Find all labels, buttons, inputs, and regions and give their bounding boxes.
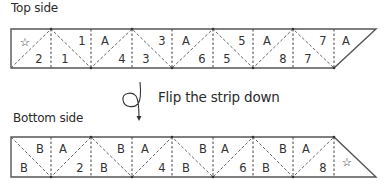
top-cell-label: 6: [198, 52, 205, 66]
top-cell-label: 1: [61, 52, 68, 66]
bottom-cell-label: B: [182, 161, 190, 175]
flip-instruction-text: Flip the strip down: [158, 89, 280, 105]
bottom-cell-label: 8: [319, 161, 326, 175]
top-cell-label: 8: [279, 52, 286, 66]
top-strip-cell-labels: ☆211A433A655A877A: [20, 34, 350, 66]
bottom-cell-label: B: [20, 161, 28, 175]
star-icon: ☆: [342, 155, 352, 169]
top-cell-label: A: [342, 34, 350, 48]
bottom-cell-label: A: [59, 142, 67, 156]
top-cell-label: 3: [142, 52, 149, 66]
top-cell-label: A: [101, 34, 109, 48]
top-cell-label: 5: [238, 34, 245, 48]
bottom-cell-label: B: [199, 142, 207, 156]
bottom-cell-label: A: [141, 142, 149, 156]
bottom-cell-label: 2: [76, 161, 83, 175]
bottom-cell-label: B: [279, 142, 287, 156]
top-cell-label: A: [263, 34, 271, 48]
top-cell-label: 7: [304, 52, 311, 66]
star-icon: ☆: [20, 35, 30, 49]
top-cell-label: 4: [118, 52, 125, 66]
bottom-cell-label: 4: [158, 161, 165, 175]
flip-arrow-icon: [123, 82, 142, 121]
bottom-strip: BBA2BBA4BBA6BBA8☆: [11, 136, 376, 179]
bottom-cell-label: B: [117, 142, 125, 156]
bottom-cell-label: B: [36, 142, 44, 156]
bottom-cell-label: B: [262, 161, 270, 175]
bottom-cell-label: 6: [239, 161, 246, 175]
bottom-cell-label: A: [221, 142, 229, 156]
bottom-cell-label: A: [302, 142, 310, 156]
top-cell-label: 3: [158, 34, 165, 48]
top-cell-label: 7: [319, 34, 326, 48]
top-cell-label: 2: [35, 52, 42, 66]
top-cell-label: A: [182, 34, 190, 48]
top-cell-label: 1: [78, 34, 85, 48]
top-strip: ☆211A433A655A877A: [11, 28, 376, 70]
top-cell-label: 5: [223, 52, 230, 66]
bottom-cell-label: B: [100, 161, 108, 175]
